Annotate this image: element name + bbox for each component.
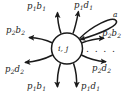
label-left-lower: p2d2	[5, 65, 24, 74]
label-left-lower-p-sub: 2	[11, 68, 15, 75]
label-bottom-left-v-sub: 1	[42, 85, 46, 92]
label-right-lower-p: p	[92, 63, 98, 73]
label-right-lower: p2d2	[92, 64, 111, 73]
arrow-bottom-right	[74, 63, 77, 87]
label-top-left-p-sub: 1	[33, 5, 37, 12]
arrow-left-lower	[25, 55, 53, 63]
label-top-right: p1d1	[74, 1, 93, 10]
label-right-lower-p-sub: 2	[98, 67, 102, 74]
diagram-canvas: i, j ․ ․ ․ ․ a p1b1 p1d1 p2b2 p2d2 p2b2 …	[0, 0, 136, 97]
label-top-left-v-sub: 1	[42, 5, 46, 12]
arrow-right-lower	[81, 55, 106, 62]
center-node-label: i, j	[58, 45, 68, 53]
label-right-upper-p-sub: 2	[108, 32, 112, 39]
label-top-right-p-sub: 1	[80, 4, 84, 11]
arrow-top-right	[73, 12, 79, 34]
label-bottom-right-v-sub: 1	[96, 85, 100, 92]
arrow-top-left	[58, 13, 62, 34]
label-bottom-right-p-sub: 1	[87, 85, 91, 92]
label-bottom-left-p: p	[27, 81, 33, 91]
label-bottom-right: p1d1	[81, 82, 100, 91]
label-top-right-v-sub: 1	[89, 4, 93, 11]
label-bottom-left-p-sub: 1	[33, 85, 37, 92]
self-loop-label: a	[113, 11, 117, 19]
label-top-left-p: p	[27, 1, 33, 11]
label-left-upper-p-sub: 2	[12, 29, 16, 36]
label-left-upper-p: p	[6, 25, 12, 35]
label-left-upper: p2b2	[6, 26, 25, 35]
label-right-upper-p: p	[102, 28, 108, 38]
label-right-upper: p2b2	[102, 29, 121, 38]
label-left-upper-v-sub: 2	[21, 29, 25, 36]
label-left-lower-p: p	[5, 64, 11, 74]
arrow-bottom-left	[57, 63, 60, 87]
label-bottom-right-p: p	[81, 81, 87, 91]
label-top-right-p: p	[74, 0, 80, 10]
label-left-lower-v-sub: 2	[20, 68, 24, 75]
arrow-left-upper	[29, 38, 53, 43]
label-right-upper-v-sub: 2	[117, 32, 121, 39]
ellipsis-dots: ․ ․ ․ ․	[86, 45, 116, 54]
label-top-left: p1b1	[27, 2, 46, 11]
label-right-lower-v-sub: 2	[107, 67, 111, 74]
label-bottom-left: p1b1	[27, 82, 46, 91]
